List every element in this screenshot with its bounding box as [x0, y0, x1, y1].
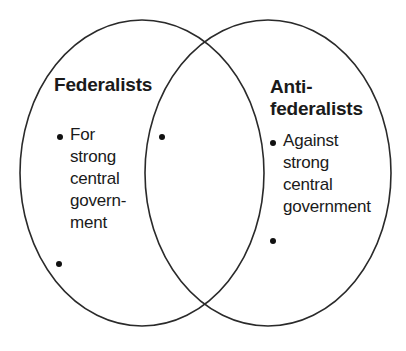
item-line: central	[283, 174, 371, 196]
overlap-empty-bullet-icon	[159, 134, 165, 140]
title-line: federalists	[270, 98, 363, 120]
federalists-empty-bullet-icon	[56, 261, 62, 267]
item-line: strong	[283, 152, 371, 174]
item-line: central	[70, 168, 126, 190]
federalists-item-1: For strong central govern- ment	[70, 124, 126, 234]
item-line: For	[70, 124, 126, 146]
item-line: Against	[283, 130, 371, 152]
anti-federalists-empty-bullet-icon	[270, 238, 276, 244]
federalists-title: Federalists	[54, 74, 152, 96]
title-line: Anti-	[270, 76, 363, 98]
bullet-icon	[270, 140, 276, 146]
bullet-icon	[57, 134, 63, 140]
item-line: government	[283, 196, 371, 218]
item-line: strong	[70, 146, 126, 168]
federalists-circle	[20, 20, 264, 326]
anti-federalists-title: Anti- federalists	[270, 76, 363, 120]
item-line: ment	[70, 212, 126, 234]
anti-federalists-item-1: Against strong central government	[283, 130, 371, 218]
item-line: govern-	[70, 190, 126, 212]
